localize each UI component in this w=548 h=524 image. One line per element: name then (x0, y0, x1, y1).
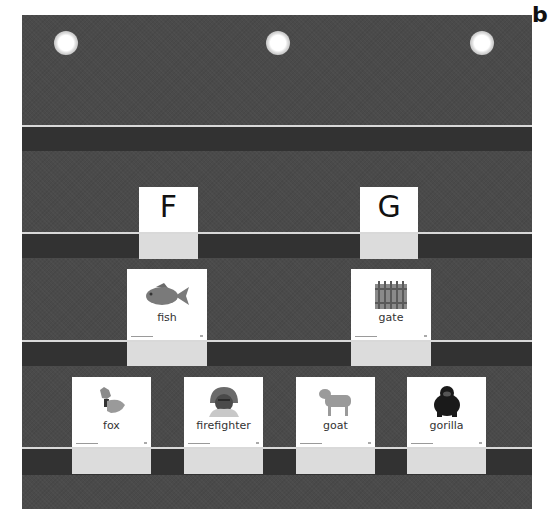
pocket-band (22, 342, 532, 366)
card-footer-mark (200, 335, 203, 337)
card-footer-line (411, 443, 433, 444)
card-footer-mark (479, 442, 482, 444)
grommet-icon (54, 31, 78, 55)
card-footer-line (355, 336, 377, 337)
letter-card-f[interactable]: F (139, 187, 198, 233)
card-word: firefighter (184, 419, 263, 432)
picture-card-gate[interactable]: gate (351, 269, 431, 340)
card-footer-line (188, 443, 210, 444)
picture-card-gate-tucked (351, 342, 431, 366)
card-footer-mark (144, 442, 147, 444)
grommet-icon (266, 31, 290, 55)
letter-label: G (360, 189, 418, 224)
gate-icon (375, 281, 407, 309)
card-footer-mark (424, 335, 427, 337)
picture-card-goat-tucked (296, 449, 375, 474)
picture-card-gorilla[interactable]: gorilla (407, 377, 486, 447)
card-footer-line (300, 443, 322, 444)
letter-card-g-tucked (360, 234, 418, 259)
picture-card-firefighter-tucked (184, 449, 263, 474)
picture-card-fish-tucked (127, 342, 207, 366)
fox-icon (97, 387, 127, 417)
card-footer-line (76, 443, 98, 444)
card-word: fox (72, 419, 151, 432)
gorilla-icon (432, 385, 462, 417)
card-footer-line (131, 336, 153, 337)
card-word: goat (296, 419, 375, 432)
card-word: gate (351, 311, 431, 324)
letter-card-f-tucked (139, 234, 198, 259)
firefighter-icon (206, 385, 242, 417)
picture-card-gorilla-tucked (407, 449, 486, 474)
picture-card-fish[interactable]: fish (127, 269, 207, 340)
card-word: fish (127, 311, 207, 324)
goat-icon (317, 387, 355, 417)
picture-card-fox[interactable]: fox (72, 377, 151, 447)
pocket-band (22, 234, 532, 258)
picture-card-goat[interactable]: goat (296, 377, 375, 447)
card-footer-mark (368, 442, 371, 444)
card-footer-mark (256, 442, 259, 444)
picture-card-firefighter[interactable]: firefighter (184, 377, 263, 447)
grommet-icon (470, 31, 494, 55)
figure-label: b (532, 2, 548, 27)
fish-icon (144, 283, 190, 309)
letter-card-g[interactable]: G (360, 187, 418, 233)
pocket-band (22, 127, 532, 151)
picture-card-fox-tucked (72, 449, 151, 474)
card-word: gorilla (407, 419, 486, 432)
letter-label: F (139, 189, 198, 224)
